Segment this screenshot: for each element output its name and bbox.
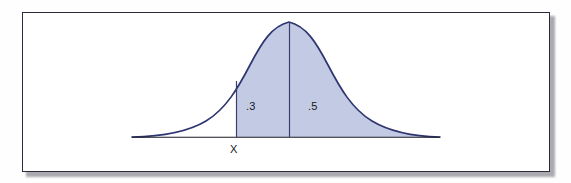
figure-root: .3 .5 X bbox=[0, 0, 571, 183]
figure-panel bbox=[22, 12, 550, 172]
area-label-left: .3 bbox=[246, 100, 256, 112]
area-label-right: .5 bbox=[308, 100, 318, 112]
x-axis-point-label: X bbox=[230, 143, 238, 155]
